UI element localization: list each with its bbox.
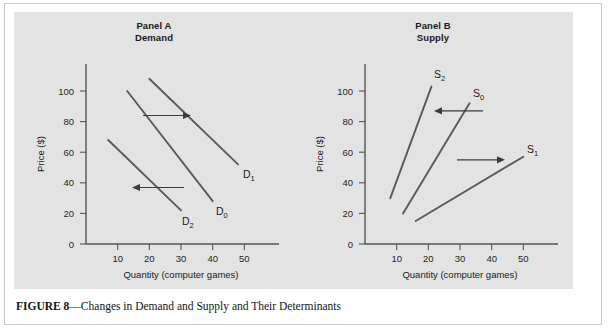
panel-b-increase-arrow <box>457 156 505 163</box>
curve-label-d0: D0 <box>216 205 228 220</box>
panel-a-y-axis-title: Price ($) <box>35 136 46 172</box>
panel-a-x-axis-title: Quantity (computer games) <box>123 269 238 280</box>
panel-a-xlabel-20: 20 <box>144 253 155 264</box>
panel-a-ylabel-40: 40 <box>63 177 74 188</box>
panel-b-xlabel-10: 10 <box>391 253 402 264</box>
figure-caption-text: Changes in Demand and Supply and Their D… <box>81 300 341 312</box>
curve-label-s0: S0 <box>473 87 484 102</box>
curve-label-s1: S1 <box>527 143 538 158</box>
panel-b-plot: 0 20 40 60 80 100 10 20 30 40 50 Quantit… <box>293 12 573 289</box>
curve-s0 <box>403 103 470 213</box>
panel-b-ylabel-60: 60 <box>342 147 353 158</box>
panel-b-supply: Panel B Supply 0 20 40 60 <box>293 12 573 289</box>
panel-b-ylabel-100: 100 <box>337 86 353 97</box>
figure-plate: Panel A Demand <box>14 12 573 289</box>
panel-b-xlabel-50: 50 <box>518 253 529 264</box>
panel-b-y-axis-title: Price ($) <box>314 136 325 172</box>
panel-a-ylabel-0: 0 <box>69 239 74 250</box>
panel-a-plot: 0 20 40 60 80 100 10 20 30 40 50 Quantit… <box>14 12 294 289</box>
curve-label-d2: D2 <box>182 215 194 230</box>
panel-a-ylabel-20: 20 <box>63 208 74 219</box>
curve-d0 <box>127 91 213 201</box>
panel-a-ylabel-80: 80 <box>63 116 74 127</box>
panel-a-decrease-arrow <box>132 184 184 191</box>
caption-divider <box>5 324 602 325</box>
panel-a-demand: Panel A Demand <box>14 12 294 289</box>
curve-d1 <box>149 79 238 165</box>
curve-d2 <box>108 140 181 210</box>
figure-caption: FIGURE 8—Changes in Demand and Supply an… <box>16 300 586 312</box>
panel-a-increase-arrow <box>143 112 191 119</box>
figure-container: Panel A Demand <box>0 0 608 333</box>
panel-b-decrease-arrow <box>434 107 483 114</box>
panel-a-xlabel-30: 30 <box>176 253 187 264</box>
panel-b-ylabel-0: 0 <box>348 239 353 250</box>
panel-b-ylabel-20: 20 <box>342 208 353 219</box>
figure-number: FIGURE 8 <box>16 300 69 312</box>
curve-label-d1: D1 <box>243 168 255 183</box>
panel-b-ylabel-80: 80 <box>342 116 353 127</box>
panel-b-xlabel-30: 30 <box>455 253 466 264</box>
panel-b-ylabel-40: 40 <box>342 177 353 188</box>
panel-a-ylabel-100: 100 <box>58 86 74 97</box>
panel-a-xlabel-10: 10 <box>112 253 123 264</box>
curve-s2 <box>390 86 431 198</box>
curve-label-s2: S2 <box>434 68 445 83</box>
panel-a-xlabel-40: 40 <box>207 253 218 264</box>
panel-a-xlabel-50: 50 <box>239 253 250 264</box>
panel-a-ylabel-60: 60 <box>63 147 74 158</box>
panel-b-xlabel-40: 40 <box>486 253 497 264</box>
panel-b-x-axis-title: Quantity (computer games) <box>402 269 517 280</box>
panel-b-xlabel-20: 20 <box>423 253 434 264</box>
figure-caption-dash: — <box>69 300 81 312</box>
